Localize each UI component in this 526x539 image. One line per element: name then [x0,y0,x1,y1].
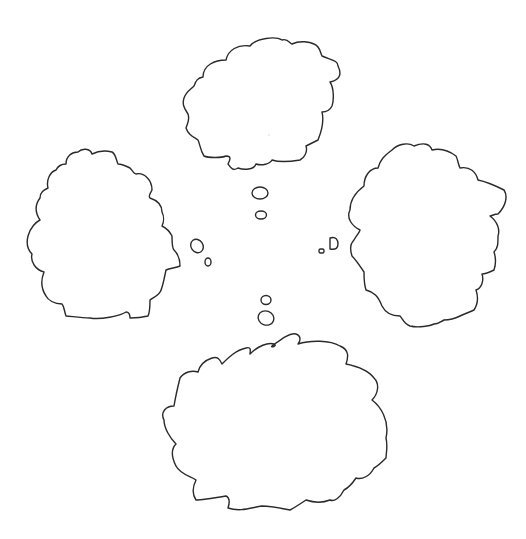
thought-bubble-bottom [163,296,387,511]
bubble-outline-top [183,38,340,169]
bubble-outline-right [349,144,506,327]
trail-bubble-top-large [252,187,268,199]
bubble-outline-left [27,149,180,318]
trail-bubble-bottom-small [261,296,271,305]
trail-bubble-bottom-large [256,309,276,328]
thought-bubble-left [27,149,211,318]
thought-bubble-top [183,38,340,219]
bubble-outline-bottom [163,334,387,510]
speck [268,134,270,136]
thought-bubble-right [319,144,506,327]
trail-bubble-top-small [256,211,267,219]
trail-bubble-left-small [205,258,211,266]
trail-bubble-left-large [188,237,206,255]
trail-bubble-right-large [330,237,338,249]
diagram-svg [0,0,526,539]
thought-bubbles-diagram [0,0,526,539]
trail-bubble-right-small [319,249,324,253]
